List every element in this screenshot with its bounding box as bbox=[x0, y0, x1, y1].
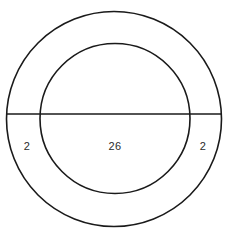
label-right-ring-width: 2 bbox=[200, 140, 206, 152]
geometry-diagram: 2 26 2 bbox=[0, 0, 229, 241]
label-inner-diameter: 26 bbox=[109, 140, 122, 152]
diagram-canvas bbox=[0, 0, 229, 241]
inner-circle bbox=[40, 44, 190, 194]
label-left-ring-width: 2 bbox=[24, 140, 30, 152]
